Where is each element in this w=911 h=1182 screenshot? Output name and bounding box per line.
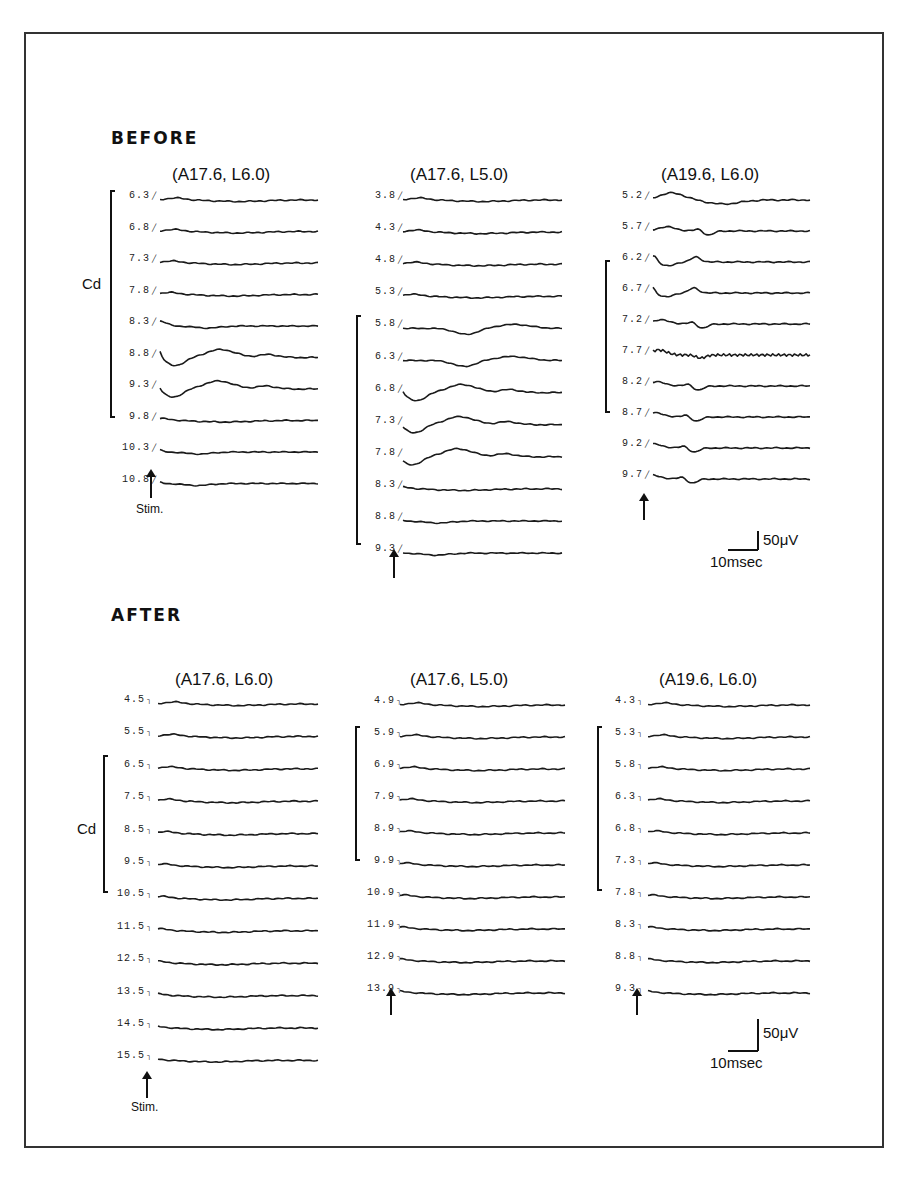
calibration-tick-icon: ┐ <box>147 793 151 801</box>
after-scale-amplitude: 50μV <box>763 1024 798 1041</box>
calibration-tick-icon: ╱ <box>398 192 402 200</box>
calibration-tick-icon: ╱ <box>152 192 156 200</box>
depth-label: 8.3 <box>110 316 150 327</box>
calibration-tick-icon: ╱ <box>152 255 156 263</box>
calibration-tick-icon: ┐ <box>147 858 151 866</box>
depth-label: 4.8 <box>356 254 396 265</box>
depth-label: 9.3 <box>110 379 150 390</box>
depth-label: 5.5 <box>105 726 145 737</box>
depth-label: 11.5 <box>105 921 145 932</box>
depth-label: 4.3 <box>596 695 636 706</box>
calibration-tick-icon: ╱ <box>398 513 402 521</box>
calibration-tick-icon: ┐ <box>638 761 642 769</box>
before-stim-label: Stim. <box>136 502 163 516</box>
calibration-tick-icon: ╱ <box>398 481 402 489</box>
calibration-tick-icon: ┐ <box>147 1052 151 1060</box>
depth-label: 9.3 <box>596 983 636 994</box>
depth-label: 10.9 <box>355 887 395 898</box>
after-col2-title: (A17.6, L5.0) <box>410 670 508 690</box>
depth-label: 6.8 <box>596 823 636 834</box>
depth-label: 4.5 <box>105 694 145 705</box>
depth-label: 7.3 <box>596 855 636 866</box>
calibration-tick-icon: ┐ <box>147 988 151 996</box>
scale-bar-amplitude-line <box>757 1019 759 1051</box>
depth-label: 5.3 <box>356 286 396 297</box>
calibration-tick-icon: ╱ <box>645 285 649 293</box>
calibration-tick-icon: ╱ <box>645 409 649 417</box>
depth-label: 8.3 <box>356 479 396 490</box>
calibration-tick-icon: ┐ <box>147 761 151 769</box>
calibration-tick-icon: ╱ <box>645 378 649 386</box>
depth-label: 8.3 <box>596 919 636 930</box>
scale-bar-amplitude-line <box>757 531 759 550</box>
after-scale-time: 10msec <box>710 1054 763 1071</box>
section-title-after: AFTER <box>111 605 182 625</box>
depth-label: 5.9 <box>355 727 395 738</box>
depth-label: 6.3 <box>356 351 396 362</box>
after-cd-label: Cd <box>77 820 96 837</box>
calibration-tick-icon: ╱ <box>398 256 402 264</box>
before-col3-cd-bracket <box>605 260 607 413</box>
after-col1-cd-bracket <box>103 755 105 893</box>
calibration-tick-icon: ┐ <box>638 857 642 865</box>
depth-label: 7.9 <box>355 791 395 802</box>
after-col2-cd-bracket <box>355 726 357 861</box>
calibration-tick-icon: ╱ <box>398 320 402 328</box>
depth-label: 7.2 <box>603 314 643 325</box>
depth-label: 6.9 <box>355 759 395 770</box>
depth-label: 5.3 <box>596 727 636 738</box>
calibration-tick-icon: ┐ <box>397 921 401 929</box>
calibration-tick-icon: ╱ <box>645 192 649 200</box>
calibration-tick-icon: ┐ <box>147 826 151 834</box>
before-col2-title: (A17.6, L5.0) <box>410 165 508 185</box>
before-col1-cd-bracket <box>110 190 112 418</box>
before-scale-amplitude: 50μV <box>763 531 798 548</box>
depth-label: 9.7 <box>603 469 643 480</box>
depth-label: 5.8 <box>596 759 636 770</box>
before-col1-title: (A17.6, L6.0) <box>172 165 270 185</box>
depth-label: 6.3 <box>110 190 150 201</box>
depth-label: 15.5 <box>105 1050 145 1061</box>
calibration-tick-icon: ┐ <box>397 697 401 705</box>
depth-label: 14.5 <box>105 1018 145 1029</box>
calibration-tick-icon: ┐ <box>397 985 401 993</box>
depth-label: 7.3 <box>356 415 396 426</box>
calibration-tick-icon: ┐ <box>638 729 642 737</box>
calibration-tick-icon: ┐ <box>638 825 642 833</box>
calibration-tick-icon: ┐ <box>397 761 401 769</box>
depth-label: 5.7 <box>603 221 643 232</box>
calibration-tick-icon: ┐ <box>638 889 642 897</box>
calibration-tick-icon: ┐ <box>147 955 151 963</box>
calibration-tick-icon: ╱ <box>645 254 649 262</box>
calibration-tick-icon: ┐ <box>397 857 401 865</box>
calibration-tick-icon: ┐ <box>147 890 151 898</box>
calibration-tick-icon: ╱ <box>398 385 402 393</box>
calibration-tick-icon: ┐ <box>638 921 642 929</box>
calibration-tick-icon: ╱ <box>152 350 156 358</box>
stim-arrow-icon <box>146 1078 148 1098</box>
depth-label: 6.8 <box>110 222 150 233</box>
calibration-tick-icon: ┐ <box>638 697 642 705</box>
scale-bar-time-line <box>728 549 758 551</box>
after-stim-label: Stim. <box>131 1100 158 1114</box>
depth-label: 6.8 <box>356 383 396 394</box>
depth-label: 8.8 <box>596 951 636 962</box>
depth-label: 3.8 <box>356 190 396 201</box>
depth-label: 7.3 <box>110 253 150 264</box>
scale-bar-time-line <box>728 1050 758 1052</box>
depth-label: 6.3 <box>596 791 636 802</box>
calibration-tick-icon: ┐ <box>397 825 401 833</box>
depth-label: 8.8 <box>356 511 396 522</box>
depth-label: 4.9 <box>355 695 395 706</box>
calibration-tick-icon: ╱ <box>152 381 156 389</box>
depth-label: 10.5 <box>105 888 145 899</box>
depth-label: 9.9 <box>355 855 395 866</box>
depth-label: 4.3 <box>356 222 396 233</box>
stim-arrow-icon <box>643 500 645 520</box>
calibration-tick-icon: ┐ <box>147 923 151 931</box>
depth-label: 10.3 <box>110 442 150 453</box>
calibration-tick-icon: ╱ <box>152 318 156 326</box>
before-col2-cd-bracket <box>356 315 358 545</box>
calibration-tick-icon: ╱ <box>398 449 402 457</box>
calibration-tick-icon: ┐ <box>147 1020 151 1028</box>
